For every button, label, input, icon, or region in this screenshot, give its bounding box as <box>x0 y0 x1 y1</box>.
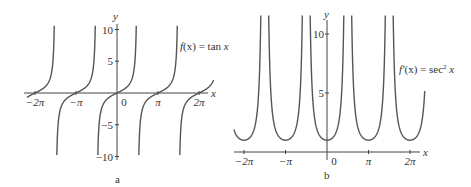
tan-branch <box>139 26 177 155</box>
y-tick-label: −5 <box>101 119 113 131</box>
sec2-branch <box>269 16 303 141</box>
sec2-branch <box>352 16 386 141</box>
sec2-branch <box>393 16 425 141</box>
x-axis-label-a: x <box>210 87 216 99</box>
y-tick-label: 5 <box>319 87 325 99</box>
x-tick-label: 0 <box>331 155 337 167</box>
x-tick-label: 0 <box>121 96 127 108</box>
function-label-a: f(x) = tan x <box>180 40 229 53</box>
caption-b: b <box>324 169 330 181</box>
y-axis-label-b: y <box>323 8 329 20</box>
sec2-curves <box>234 16 425 141</box>
chart-figure: 105−5−10 −2π−π0π2π y x f(x) = tan x a 10… <box>0 0 471 187</box>
x-tick-label: 2π <box>193 96 205 108</box>
x-tick-label: −π <box>279 155 292 167</box>
caption-a: a <box>115 173 120 185</box>
y-tick-label: 5 <box>108 55 114 67</box>
y-axis-label-a: y <box>112 10 118 22</box>
panel-b: 105 −2π−π0π2π y x f′(x) = sec2 x b <box>234 8 454 181</box>
x-tick-label: −2π <box>26 96 45 108</box>
x-tick-label: π <box>366 155 372 167</box>
x-tick-label: −2π <box>235 155 254 167</box>
tan-branch <box>57 26 95 155</box>
x-tick-label: π <box>155 96 161 108</box>
tan-branch <box>27 26 54 98</box>
x-ticks-b: −2π−π0π2π <box>235 150 416 167</box>
function-label-b: f′(x) = sec2 x <box>399 63 454 76</box>
x-tick-label: 2π <box>404 155 416 167</box>
tan-branch <box>180 80 214 155</box>
y-tick-label: 10 <box>313 28 325 40</box>
y-tick-label: 10 <box>102 24 114 36</box>
panel-a: 105−5−10 −2π−π0π2π y x f(x) = tan x a <box>24 10 229 185</box>
sec2-branch <box>234 16 261 141</box>
x-axis-label-b: x <box>422 146 428 158</box>
x-tick-label: −π <box>70 96 83 108</box>
